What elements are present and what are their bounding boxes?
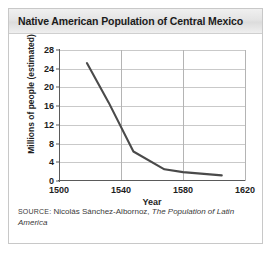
data-line	[87, 63, 222, 175]
chart-title-band: Native American Population of Central Me…	[9, 9, 262, 34]
source-author: Nicolás Sánchez-Albornoz,	[51, 207, 152, 216]
data-line-series	[59, 50, 245, 181]
x-tick-label: 1540	[111, 185, 131, 195]
plot-region: 0481216202428 1500154015801620	[59, 50, 245, 181]
source-note: SOURCE: Nicolás Sánchez-Albornoz, The Po…	[18, 207, 250, 228]
page-title: Native American Population of Central Me…	[18, 15, 243, 27]
y-tick-label: 8	[49, 139, 54, 149]
y-tick-label: 4	[49, 157, 54, 167]
source-kicker: SOURCE:	[18, 208, 51, 215]
y-tick-label: 24	[44, 64, 54, 74]
chart-area: Millions of people (estimated) 048121620…	[9, 34, 262, 202]
y-tick-label: 12	[44, 120, 54, 130]
x-axis-title: Year	[59, 197, 245, 207]
chart-card-root: Native American Population of Central Me…	[0, 0, 275, 258]
y-tick-label: 28	[44, 45, 54, 55]
y-tick-label: 20	[44, 82, 54, 92]
x-tick-label: 1620	[235, 185, 255, 195]
x-tick-label: 1500	[49, 185, 69, 195]
x-tick-label: 1580	[173, 185, 193, 195]
chart-card: Native American Population of Central Me…	[8, 8, 263, 244]
gridline-vertical	[245, 50, 246, 181]
y-tick-label: 16	[44, 101, 54, 111]
y-axis-title: Millions of people (estimated)	[26, 24, 36, 164]
